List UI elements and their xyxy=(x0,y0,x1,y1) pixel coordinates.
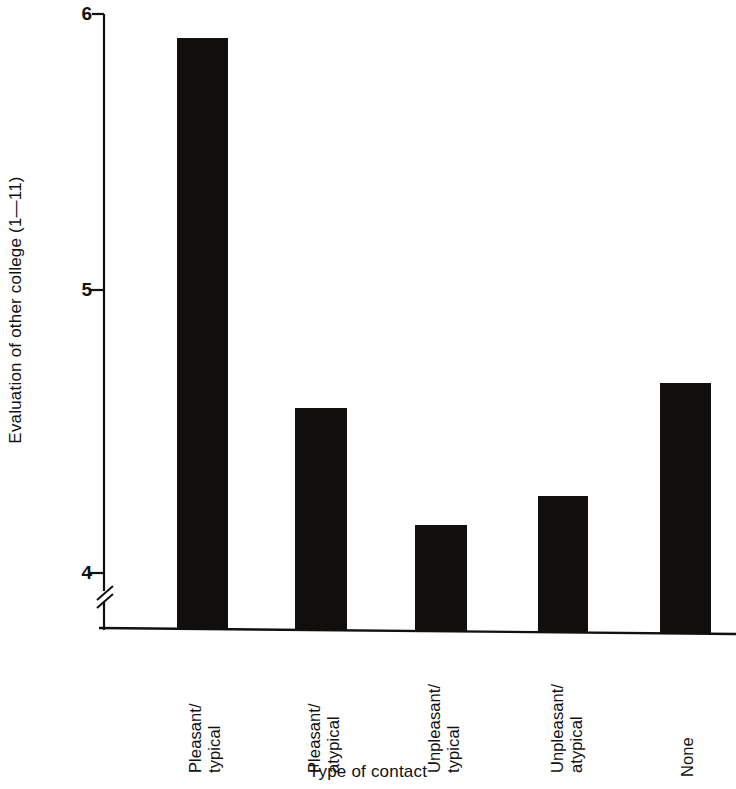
y-axis-title: Evaluation of other college (1—11) xyxy=(2,0,30,625)
y-tick-4: 4 xyxy=(62,563,92,583)
x-tick-label-unpleasant-typical: Unpleasant/ typical xyxy=(422,641,554,665)
y-tick-label-6: 6 xyxy=(66,4,92,23)
axis-break-slash-lower xyxy=(97,594,113,608)
y-tick-5: 5 xyxy=(62,280,92,300)
chart-axes xyxy=(0,0,736,789)
x-tick-label-none: None xyxy=(675,645,736,669)
y-tick-label-4: 4 xyxy=(66,563,92,582)
y-tick-6: 6 xyxy=(62,4,92,24)
bar-pleasant-typical xyxy=(177,38,228,629)
bar-unpleasant-atypical xyxy=(538,496,588,632)
x-tick-line-2: typical xyxy=(202,641,226,773)
y-tick-label-5: 5 xyxy=(66,280,92,299)
x-axis-title: Type of contact xyxy=(0,762,736,782)
x-tick-line-1: None xyxy=(675,645,699,777)
bar-none xyxy=(660,383,711,633)
x-tick-line-2: typical xyxy=(441,641,465,773)
bar-unpleasant-typical xyxy=(415,525,467,631)
x-tick-line-2: atypical xyxy=(321,641,345,773)
x-tick-label-unpleasant-atypical: Unpleasant/ atypical xyxy=(545,641,677,665)
bar-chart-figure: Evaluation of other college (1—11) 6 5 4… xyxy=(0,0,736,789)
x-tick-label-pleasant-atypical: Pleasant/ atypical xyxy=(302,641,434,665)
bar-pleasant-atypical xyxy=(295,408,347,630)
x-tick-label-pleasant-typical: Pleasant/ typical xyxy=(183,641,315,665)
x-tick-line-2: atypical xyxy=(564,641,588,773)
axis-break-slash-upper xyxy=(97,586,113,600)
